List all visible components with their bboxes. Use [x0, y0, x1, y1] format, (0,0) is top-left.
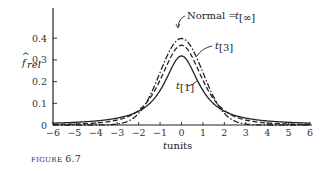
- x-tick-label: −1: [153, 127, 167, 138]
- x-tick-label: −5: [67, 127, 81, 138]
- x-tick-label: −3: [110, 127, 124, 138]
- x-tick-label: −4: [89, 127, 103, 138]
- annotation-t3: t [3]: [197, 40, 233, 56]
- x-tick-label: −6: [46, 127, 60, 138]
- x-tick-label: 0: [178, 127, 184, 138]
- y-tick-label: 0.1: [32, 98, 47, 109]
- svg-text:Normal =: Normal =: [187, 10, 237, 21]
- x-tick-label: −2: [132, 127, 146, 138]
- annotation-t1: t [1]: [176, 80, 197, 93]
- y-tick-label: 0.4: [32, 33, 47, 44]
- svg-text:[1]: [1]: [180, 82, 194, 93]
- svg-text:[3]: [3]: [219, 42, 233, 53]
- figure-caption: FIGURE 6.7: [31, 153, 81, 164]
- x-tick-label: 3: [243, 127, 249, 138]
- x-tick-label: 2: [221, 127, 227, 138]
- x-tick-label: 6: [307, 127, 313, 138]
- annotation-normal: Normal = t [∞]: [176, 10, 255, 28]
- chart: 00.10.20.30.4 −6−5−4−3−2−10123456 f ^ re…: [0, 0, 334, 171]
- x-tick-label: 1: [200, 127, 206, 138]
- svg-text:rel: rel: [27, 59, 41, 70]
- x-axis-label: t units: [163, 140, 192, 151]
- svg-text:[∞]: [∞]: [239, 12, 255, 23]
- svg-text:units: units: [167, 140, 192, 151]
- x-tick-label: 4: [264, 127, 270, 138]
- x-tick-label: 5: [286, 127, 292, 138]
- y-tick-label: 0.2: [32, 76, 47, 87]
- y-axis-label: f ^ rel: [21, 50, 41, 70]
